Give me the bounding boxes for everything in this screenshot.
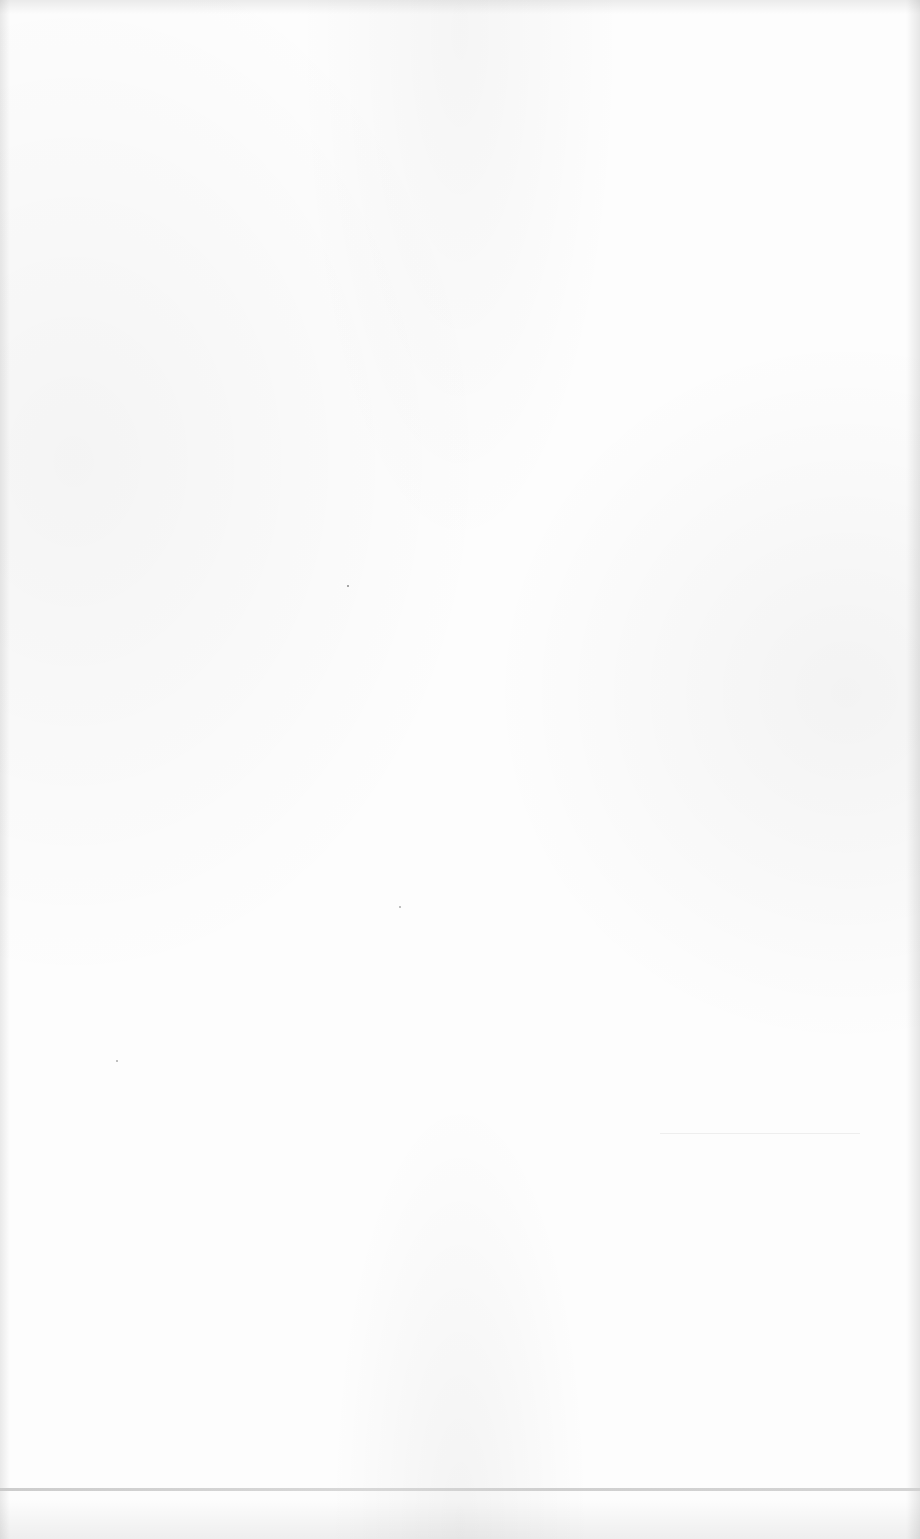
faint-scan-mark: [660, 1133, 860, 1134]
scan-edge-shadow-left: [0, 0, 10, 1539]
scan-edge-shadow-right: [906, 0, 920, 1539]
blank-page: [0, 0, 920, 1539]
scan-edge-shadow-bottom: [0, 1499, 920, 1539]
footer-horizontal-rule: [0, 1488, 920, 1491]
scan-edge-shadow-top: [0, 0, 920, 14]
dust-speck: [399, 906, 401, 908]
dust-speck: [116, 1060, 118, 1062]
dust-speck: [347, 585, 349, 587]
